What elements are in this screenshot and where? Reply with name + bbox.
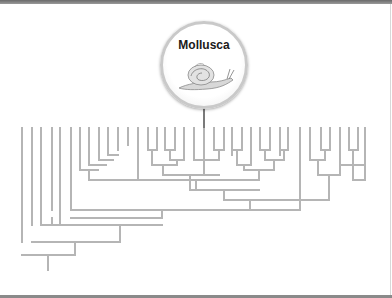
mollusca-badge[interactable]: Mollusca	[160, 21, 248, 109]
snail-icon	[177, 58, 237, 92]
clade-label: Mollusca	[163, 38, 245, 52]
